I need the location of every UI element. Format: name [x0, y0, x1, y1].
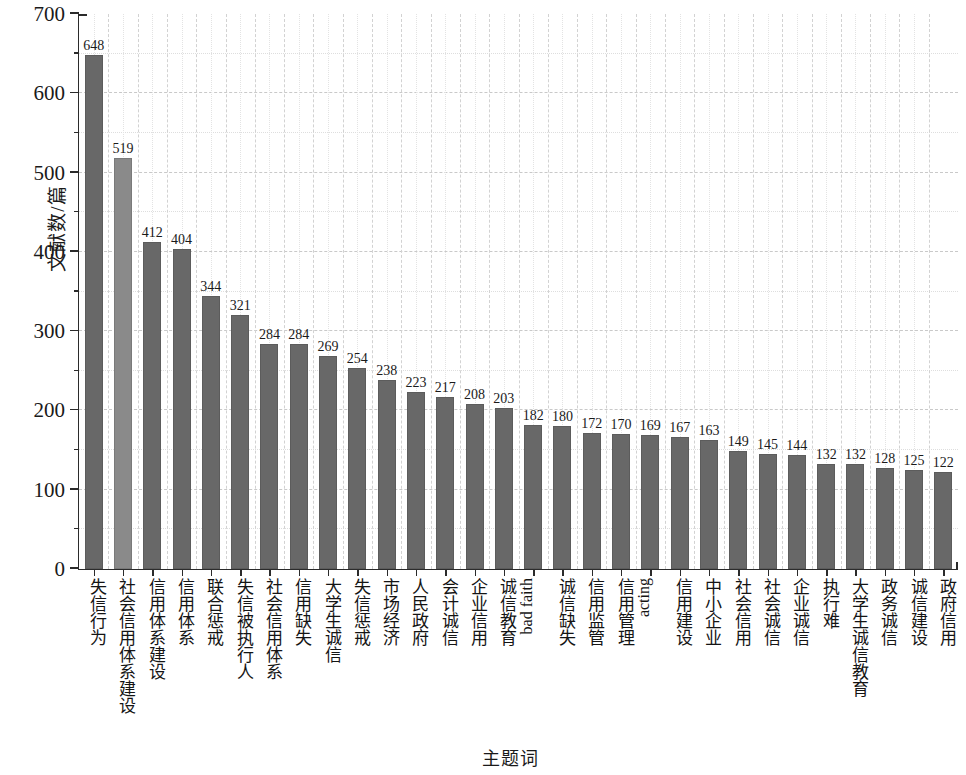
bar-value-label: 284 [288, 328, 309, 342]
y-axis-tick-label: 0 [55, 557, 66, 582]
bar[interactable]: 238 [378, 380, 396, 569]
bar-value-label: 145 [757, 438, 778, 452]
y-axis-tick-minor [74, 211, 79, 212]
bar[interactable]: 163 [700, 440, 718, 569]
bar[interactable]: 208 [466, 404, 484, 569]
y-axis-tick [70, 567, 79, 569]
bar[interactable]: 217 [436, 397, 454, 569]
bar[interactable]: 254 [348, 368, 366, 569]
bar-value-label: 167 [669, 421, 690, 435]
bar[interactable]: 125 [905, 470, 923, 569]
bar-value-label: 254 [347, 352, 368, 366]
x-axis-tick [738, 569, 739, 576]
x-axis-category-label: 执行难 [812, 578, 838, 629]
x-axis-category-label: 大学生诚信教育 [841, 578, 867, 697]
x-axis-category-label: 失信行为 [80, 578, 106, 646]
x-axis-tick [680, 569, 681, 576]
bar[interactable]: 170 [612, 434, 630, 569]
x-axis-category-label: 联合惩戒 [197, 578, 223, 646]
x-axis-tick [943, 569, 944, 576]
bar[interactable]: 223 [407, 392, 425, 569]
bar-value-label: 182 [523, 409, 544, 423]
plot-area: 6485194124043443212842842692542382232172… [78, 14, 958, 570]
y-axis-tick-label: 700 [34, 2, 66, 27]
gridline-vertical [167, 14, 168, 569]
x-axis-category-label: 市场经济 [373, 578, 399, 646]
bar-value-label: 344 [200, 280, 221, 294]
bar[interactable]: 203 [495, 408, 513, 569]
x-axis-category-label: 信用建设 [666, 578, 692, 646]
bar[interactable]: 648 [85, 55, 103, 569]
bar[interactable]: 144 [788, 455, 806, 569]
bar[interactable]: 172 [583, 433, 601, 569]
bar[interactable]: 519 [114, 158, 132, 569]
plot-inner: 6485194124043443212842842692542382232172… [79, 14, 958, 569]
gridline-vertical [313, 14, 314, 569]
bar[interactable]: 269 [319, 356, 337, 569]
bar[interactable]: 169 [641, 435, 659, 569]
gridline-vertical [870, 14, 871, 569]
x-axis-category-label: 信用体系建设 [138, 578, 164, 680]
x-axis-tick [269, 569, 270, 576]
y-axis-tick [70, 250, 79, 252]
x-axis-tick [504, 569, 505, 576]
bar[interactable]: 182 [524, 425, 542, 569]
bar-value-label: 169 [640, 419, 661, 433]
x-axis-tick [445, 569, 446, 576]
bar[interactable]: 122 [934, 472, 952, 569]
bar-value-label: 269 [318, 340, 339, 354]
gridline-vertical [284, 14, 285, 569]
bar-value-label: 208 [464, 388, 485, 402]
x-axis-tick [475, 569, 476, 576]
gridline-vertical [577, 14, 578, 569]
bar-value-label: 284 [259, 328, 280, 342]
y-axis-tick-minor [74, 528, 79, 529]
x-axis-category-label: 失信被执行人 [226, 578, 252, 680]
bar[interactable]: 284 [260, 344, 278, 569]
gridline-vertical [519, 14, 520, 569]
x-axis-category-label: 信用缺失 [285, 578, 311, 646]
gridline-vertical [489, 14, 490, 569]
x-axis-tick [240, 569, 241, 576]
bar-value-label: 519 [112, 142, 133, 156]
x-axis-tick [797, 569, 798, 576]
y-axis-tick-label: 600 [34, 81, 66, 106]
y-axis-tick-label: 500 [34, 160, 66, 185]
bar-value-label: 223 [405, 376, 426, 390]
gridline-vertical [665, 14, 666, 569]
y-axis-tick-label: 200 [34, 398, 66, 423]
bar[interactable]: 404 [173, 249, 191, 569]
x-axis-tick [182, 569, 183, 576]
x-axis-tick [621, 569, 622, 576]
bar[interactable]: 132 [846, 464, 864, 569]
gridline-vertical [899, 14, 900, 569]
bar-value-label: 217 [435, 381, 456, 395]
bar[interactable]: 149 [729, 451, 747, 569]
bar-value-label: 128 [874, 452, 895, 466]
bar[interactable]: 180 [553, 426, 571, 569]
x-axis-tick [914, 569, 915, 576]
bar-value-label: 132 [845, 448, 866, 462]
bar[interactable]: 321 [231, 315, 249, 570]
bar[interactable]: 412 [143, 242, 161, 569]
x-axis-tick [211, 569, 212, 576]
gridline-vertical [812, 14, 813, 569]
bar-value-label: 238 [376, 364, 397, 378]
gridline-vertical [753, 14, 754, 569]
y-axis-tick-label: 400 [34, 239, 66, 264]
x-axis-tick [885, 569, 886, 576]
bar[interactable]: 145 [759, 454, 777, 569]
y-axis-tick-label: 100 [34, 477, 66, 502]
bar[interactable]: 167 [671, 437, 689, 569]
bar[interactable]: 132 [817, 464, 835, 569]
gridline-vertical [108, 14, 109, 569]
x-axis-category-label: 政府信用 [929, 578, 955, 646]
bar[interactable]: 128 [876, 468, 894, 569]
bar-value-label: 412 [142, 226, 163, 240]
bar[interactable]: 284 [290, 344, 308, 569]
bar[interactable]: 344 [202, 296, 220, 569]
bar-value-label: 203 [493, 392, 514, 406]
bar-value-label: 170 [611, 418, 632, 432]
bar-chart-figure: 文献数/篇 6485194124043443212842842692542382… [0, 0, 966, 775]
gridline-vertical [548, 14, 549, 569]
